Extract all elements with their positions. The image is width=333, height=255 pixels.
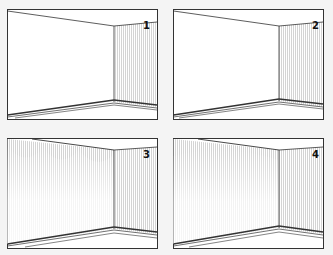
room-panel-1: 1	[7, 9, 159, 121]
right-wall	[279, 22, 323, 107]
room-drawing-2	[173, 9, 325, 121]
panel-number-label: 3	[143, 150, 150, 160]
panel-number-label: 2	[312, 21, 319, 31]
right-wall	[114, 22, 157, 107]
room-drawing-1	[7, 9, 159, 121]
right-wall	[114, 147, 157, 234]
right-wall	[279, 147, 323, 234]
room-drawing-4	[173, 138, 325, 250]
panel-number-label: 4	[312, 150, 319, 160]
panel-number-label: 1	[143, 21, 150, 31]
room-panel-4: 4	[173, 138, 325, 250]
room-panel-2: 2	[173, 9, 325, 121]
room-drawing-3	[7, 138, 159, 250]
room-panel-3: 3	[7, 138, 159, 250]
